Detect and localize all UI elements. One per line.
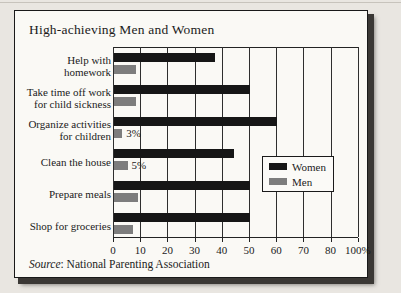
women-bar	[114, 181, 250, 190]
legend-label-women: Women	[292, 161, 326, 173]
axis-tick	[303, 238, 304, 242]
source-note: Source: National Parenting Association	[29, 258, 210, 270]
men-bar	[114, 193, 138, 202]
gridline	[303, 47, 304, 237]
category-label-line: for children	[59, 130, 111, 143]
category-label: Prepare meals	[19, 180, 111, 208]
gridline	[249, 47, 250, 237]
gridline	[276, 47, 277, 237]
women-bar	[114, 117, 277, 126]
women-bar	[114, 149, 234, 158]
bar-value-label: 5%	[132, 161, 147, 170]
gridline	[195, 47, 196, 237]
chart-title: High-achieving Men and Women	[29, 22, 214, 38]
men-bar	[114, 225, 133, 234]
legend-swatch-men	[269, 178, 287, 185]
men-bar	[114, 129, 122, 138]
axis-tick	[140, 238, 141, 242]
axis-tick	[222, 238, 223, 242]
legend-swatch-women	[269, 163, 287, 170]
legend-item-women: Women	[269, 161, 333, 173]
category-label-line: Clean the house	[41, 156, 111, 169]
category-label-line: Prepare meals	[49, 188, 111, 201]
category-label-line: for child sickness	[34, 98, 111, 111]
gridline	[331, 47, 332, 237]
legend: Women Men	[262, 156, 334, 192]
men-bar	[114, 65, 136, 74]
category-label: Shop for groceries	[19, 212, 111, 240]
axis-tick	[358, 238, 359, 242]
category-label: Clean the house	[19, 148, 111, 176]
category-label: Organize activitiesfor children	[19, 116, 111, 144]
women-bar	[114, 53, 215, 62]
plot-top-border	[113, 47, 358, 48]
category-label: Take time off workfor child sickness	[19, 84, 111, 112]
axis-tick	[167, 238, 168, 242]
bar-value-label: 3%	[126, 129, 141, 138]
category-label-line: Take time off work	[27, 86, 111, 99]
gridline	[113, 47, 114, 237]
axis-tick	[195, 238, 196, 242]
women-bar	[114, 85, 250, 94]
legend-label-men: Men	[292, 176, 312, 188]
men-bar	[114, 97, 136, 106]
gridline	[167, 47, 168, 237]
legend-item-men: Men	[269, 176, 333, 188]
axis-tick	[113, 238, 114, 242]
gridline	[222, 47, 223, 237]
axis-tick	[249, 238, 250, 242]
plot-area: 01020304050607080100%3%5%	[113, 47, 358, 237]
category-label-line: Shop for groceries	[30, 220, 111, 233]
category-label: Help withhomework	[19, 52, 111, 80]
source-text: : National Parenting Association	[61, 258, 210, 270]
men-bar	[114, 161, 128, 170]
gridline	[140, 47, 141, 237]
axis-tick	[276, 238, 277, 242]
category-label-line: homework	[64, 66, 111, 79]
category-label-line: Help with	[67, 54, 111, 67]
axis-tick	[331, 238, 332, 242]
x-tick-label: 100%	[338, 244, 378, 256]
women-bar	[114, 213, 250, 222]
x-axis-line	[113, 237, 358, 238]
chart-panel: High-achieving Men and Women 01020304050…	[14, 10, 368, 278]
source-label: Source	[29, 258, 61, 270]
gridline	[358, 47, 359, 237]
category-label-line: Organize activities	[28, 118, 111, 131]
page-background: High-achieving Men and Women 01020304050…	[0, 0, 401, 293]
